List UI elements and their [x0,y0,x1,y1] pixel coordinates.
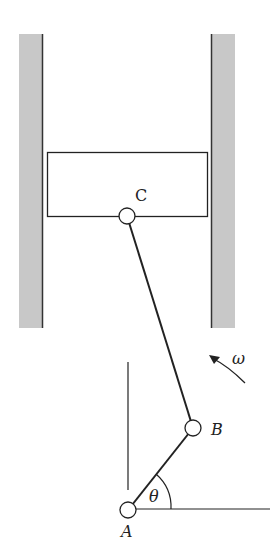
joint-C [119,208,135,224]
label-omega: ω [232,349,245,368]
joint-A [120,502,136,518]
slider-block [48,153,208,217]
slider-crank-diagram: C B A θ ω [0,0,275,554]
joint-B [185,420,201,436]
label-B: B [210,420,223,439]
label-A: A [119,522,133,541]
right-wall [211,34,235,328]
label-theta: θ [149,487,159,506]
crank-AB [128,428,193,510]
label-C: C [135,186,147,205]
left-wall [19,34,43,328]
connecting-rod-CB [127,216,193,428]
